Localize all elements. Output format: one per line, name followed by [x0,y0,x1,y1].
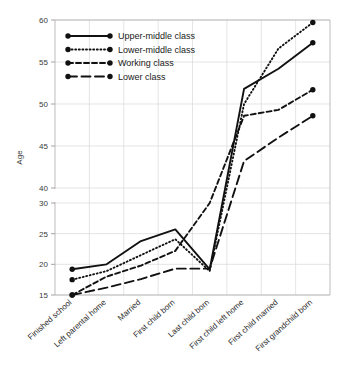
legend-marker-end-2 [107,60,112,65]
legend-marker-end-0 [107,33,112,38]
y-tick-label-15: 15 [39,291,48,300]
legend-item-1[interactable]: Lower-middle class [65,45,195,55]
legend-label-2: Working class [118,58,174,68]
x-tick-label-2: Married [116,298,142,323]
legend-marker-start-1 [65,47,70,52]
y-axis-title-text: Age [15,150,24,165]
y-tick-label-40: 40 [39,184,48,193]
y-tick-label-60: 60 [39,16,48,25]
legend-item-3[interactable]: Lower class [65,72,166,82]
legend-item-2[interactable]: Working class [65,58,174,68]
legend-label-3: Lower class [118,72,166,82]
y-tick-label-45: 45 [39,142,48,151]
data-point-2-7 [310,87,315,92]
legend-marker-end-3 [107,74,112,79]
legend-marker-start-3 [65,74,70,79]
data-point-0-7 [310,40,315,45]
data-point-0-0 [69,267,74,272]
legend-label-1: Lower-middle class [118,45,196,55]
data-point-3-0 [69,292,74,297]
y-tick-label-50: 50 [39,100,48,109]
y-tick-label-20: 20 [39,260,48,269]
legend-label-0: Upper-middle class [118,31,196,41]
line-chart: 152025304045505560 Finished schoolLeft p… [0,0,348,386]
data-point-1-0 [69,277,74,282]
x-axis-labels: Finished schoolLeft parental homeMarried… [26,297,314,353]
y-tick-label-25: 25 [39,230,48,239]
data-point-1-7 [310,20,315,25]
legend-item-0[interactable]: Upper-middle class [65,31,195,41]
y-tick-label-30: 30 [39,199,48,208]
y-axis-title: Age [15,150,24,165]
chart-canvas: 152025304045505560 Finished schoolLeft p… [0,0,348,386]
chart-legend: Upper-middle classLower-middle classWork… [65,31,195,82]
legend-marker-start-2 [65,60,70,65]
data-point-3-7 [310,113,315,118]
legend-marker-end-1 [107,47,112,52]
x-tick-label-7: First grandchild born [254,298,314,353]
legend-marker-start-0 [65,33,70,38]
y-axis-ticks: 152025304045505560 [39,16,55,300]
y-tick-label-55: 55 [39,58,48,67]
